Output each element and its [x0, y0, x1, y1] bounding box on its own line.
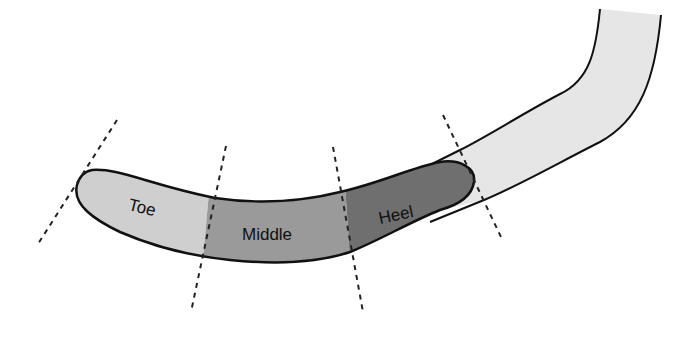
zone-toe — [0, 0, 226, 351]
zone-middle — [200, 0, 360, 351]
label-middle: Middle — [242, 225, 292, 244]
hockey-stick-diagram: Toe Middle Heel — [0, 0, 696, 351]
